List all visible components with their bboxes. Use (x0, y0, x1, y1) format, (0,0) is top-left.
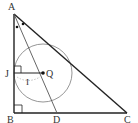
angle-mark-dot-1 (16, 26, 19, 29)
label-q: Q (46, 68, 54, 79)
label-b: B (7, 114, 14, 123)
label-d: D (53, 114, 60, 123)
label-c: C (124, 114, 131, 123)
angle-mark-dot-2 (22, 23, 25, 26)
right-angle-mark-b (14, 105, 22, 113)
bisector-ad (14, 14, 57, 113)
side-ca (14, 14, 127, 113)
label-a: A (8, 1, 16, 12)
label-radius: I (26, 77, 29, 87)
triangle-figure: A B C D J Q I (0, 0, 138, 123)
geometry-diagram: A B C D J Q I (0, 0, 138, 123)
label-j: J (5, 68, 9, 79)
center-point-q (41, 71, 45, 75)
